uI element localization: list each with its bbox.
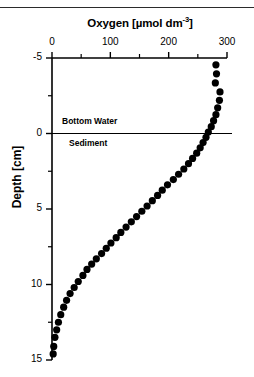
- data-point: [143, 202, 150, 209]
- data-point: [75, 278, 82, 285]
- data-point: [53, 326, 60, 333]
- data-point: [51, 334, 58, 341]
- data-point: [63, 297, 70, 304]
- y-tick-label: 0: [12, 127, 42, 138]
- y-tick-label: 15: [12, 353, 42, 364]
- y-tick-label: 10: [12, 278, 42, 289]
- data-point: [212, 61, 219, 68]
- data-points-group: [50, 61, 224, 357]
- data-point: [149, 197, 156, 204]
- axes-group: [46, 52, 227, 360]
- data-point: [50, 343, 57, 350]
- data-point: [71, 284, 78, 291]
- data-point: [57, 311, 64, 318]
- data-point: [170, 176, 177, 183]
- data-point: [138, 208, 145, 215]
- data-point: [214, 104, 221, 111]
- data-point: [98, 250, 105, 257]
- x-tick-label: 200: [149, 36, 189, 47]
- data-point: [83, 266, 90, 273]
- data-point: [180, 165, 187, 172]
- y-tick-label: 5: [12, 202, 42, 213]
- oxygen-depth-profile-figure: Oxygen [µmol dm-3] Depth [cm] Bottom Wat…: [0, 0, 254, 377]
- data-point: [122, 224, 129, 231]
- data-point: [60, 304, 67, 311]
- data-point: [66, 290, 73, 297]
- data-point: [50, 350, 57, 357]
- x-tick-label: 300: [207, 36, 247, 47]
- data-point: [164, 181, 171, 188]
- data-point: [133, 213, 140, 220]
- y-tick-label: -5: [12, 51, 42, 62]
- data-point: [128, 218, 135, 225]
- data-point: [55, 319, 62, 326]
- x-tick-label: 100: [90, 36, 130, 47]
- data-point: [212, 79, 219, 86]
- data-point: [79, 272, 86, 279]
- data-point: [113, 234, 120, 241]
- data-point: [216, 97, 223, 104]
- data-point: [216, 88, 223, 95]
- data-point: [175, 171, 182, 178]
- x-tick-label: 0: [32, 36, 72, 47]
- data-point: [213, 70, 220, 77]
- data-point: [154, 192, 161, 199]
